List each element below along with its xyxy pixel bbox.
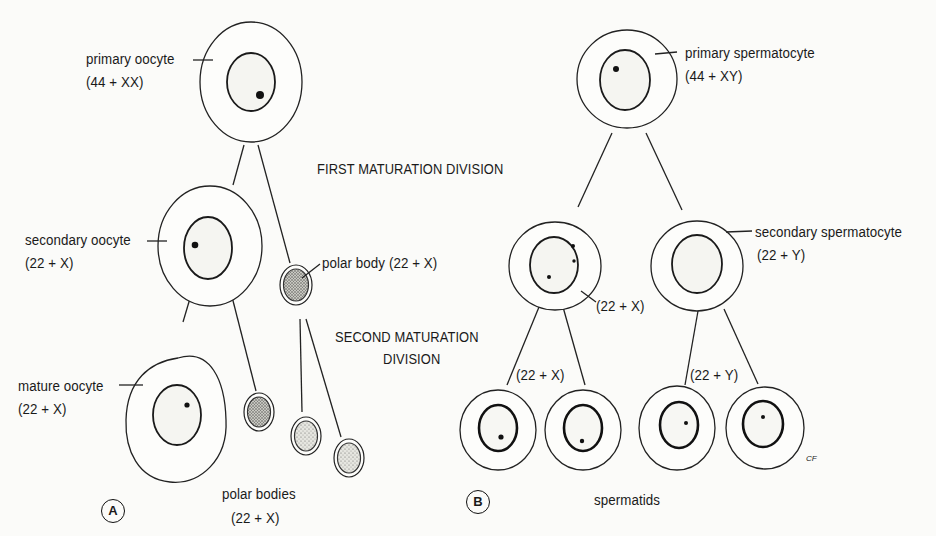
connector-line: [300, 319, 302, 412]
secondary-oocyte-karyotype: (22 + X): [25, 253, 73, 272]
spermatid-cell: [545, 390, 621, 470]
primary-spermatocyte-cell: [577, 30, 677, 128]
secondary-spermatocyte-label: secondary spermatocyte: [755, 222, 902, 241]
primary-oocyte-label: primary oocyte: [86, 49, 175, 68]
polar-body-cell: [291, 417, 321, 455]
spermatid-cell: [460, 390, 536, 470]
polar-bodies-label: polar bodies: [222, 484, 296, 503]
polar-body-cell: [244, 393, 274, 431]
panel-b-marker: B: [466, 490, 490, 514]
connector-line: [233, 145, 244, 185]
mature-oocyte-karyotype: (22 + X): [18, 399, 66, 418]
spermatid-cell: [726, 387, 804, 469]
primary-spermatocyte-karyotype: (44 + XY): [685, 66, 742, 85]
mature-oocyte-cell: [126, 356, 226, 482]
leader-line: [726, 231, 752, 232]
connector-line: [229, 285, 256, 391]
secondary-spermatocyte-x-cell: [509, 222, 601, 310]
secondary-oocyte-label: secondary oocyte: [25, 230, 131, 249]
mature-oocyte-label: mature oocyte: [18, 376, 104, 395]
first-maturation-division-label: FIRST MATURATION DIVISION: [317, 159, 503, 178]
secondary-oocyte-cell: [158, 186, 262, 306]
secondary-spermatocyte-y-karyotype: (22 + Y): [757, 245, 805, 264]
connector-line: [578, 133, 612, 207]
secondary-spermatocyte-y-cell: [651, 221, 743, 311]
polar-bodies-karyotype: (22 + X): [231, 508, 279, 527]
spermatid-cell: [639, 386, 715, 470]
first-polar-body-cell: [280, 265, 312, 305]
second-maturation-division-label-line1: SECOND MATURATION: [335, 327, 479, 346]
artist-signature: CF: [806, 454, 817, 463]
panel-b-spermatogenesis: [460, 30, 804, 470]
spermatids-x-karyotype: (22 + X): [516, 365, 564, 384]
connector-line: [646, 133, 682, 210]
panel-a-marker: A: [101, 499, 125, 523]
connector-line: [258, 145, 290, 263]
connector-line: [563, 307, 585, 385]
primary-oocyte-karyotype: (44 + XX): [86, 72, 143, 91]
first-polar-body-label: polar body (22 + X): [322, 253, 437, 272]
primary-spermatocyte-label: primary spermatocyte: [685, 43, 815, 62]
secondary-spermatocyte-x-karyotype: (22 + X): [596, 296, 644, 315]
spermatids-label: spermatids: [594, 490, 660, 509]
primary-oocyte-cell: [200, 22, 302, 142]
polar-body-cell: [334, 439, 364, 477]
spermatids-y-karyotype: (22 + Y): [690, 365, 738, 384]
second-maturation-division-label-line2: DIVISION: [383, 349, 440, 368]
